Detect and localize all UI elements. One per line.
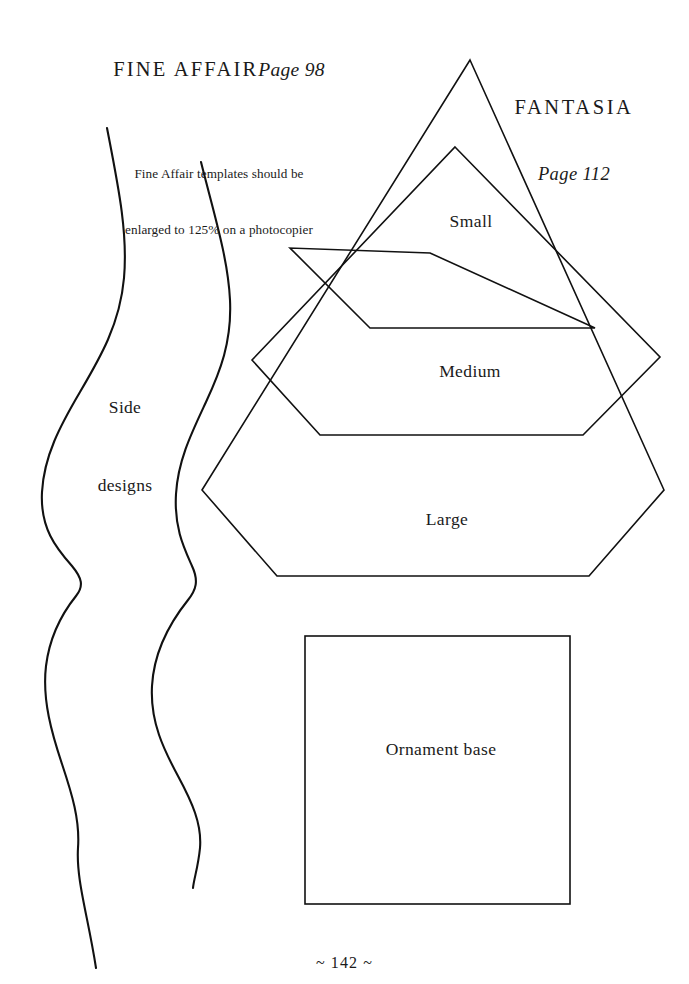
page-number-footer: ~ 142 ~ <box>0 953 689 973</box>
fine-affair-page-reference: Page 98 <box>258 59 325 80</box>
fine-affair-note-line-2: enlarged to 125% on a photocopier <box>88 221 350 240</box>
fantasia-heading-block: FANTASIA Page 112 <box>494 55 654 226</box>
template-page: FINE AFFAIRPage 98 Fine Affair templates… <box>0 0 689 984</box>
fine-affair-note: Fine Affair templates should be enlarged… <box>88 128 350 278</box>
fine-affair-title: FINE AFFAIRPage 98 <box>88 57 350 83</box>
ornament-base-label: Ornament base <box>336 739 546 761</box>
side-designs-label-line-2: designs <box>63 472 187 498</box>
fine-affair-title-text: FINE AFFAIR <box>113 58 258 80</box>
pentagon-medium-label: Medium <box>380 361 560 383</box>
fine-affair-note-line-1: Fine Affair templates should be <box>88 165 350 184</box>
fine-affair-heading-block: FINE AFFAIRPage 98 Fine Affair templates… <box>88 17 350 318</box>
ornament-base-square <box>305 636 570 904</box>
pentagon-large-label: Large <box>372 509 522 531</box>
fantasia-title: FANTASIA <box>494 95 654 121</box>
side-designs-label: Side designs <box>63 341 187 551</box>
side-designs-label-line-1: Side <box>63 394 187 420</box>
pentagon-small-label: Small <box>396 211 546 233</box>
fantasia-page-reference: Page 112 <box>494 163 654 186</box>
